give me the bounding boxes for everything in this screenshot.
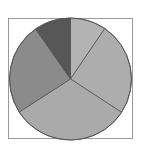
pie-chart-svg <box>0 0 141 145</box>
pie-chart <box>0 0 141 145</box>
pie-slices <box>9 18 131 140</box>
